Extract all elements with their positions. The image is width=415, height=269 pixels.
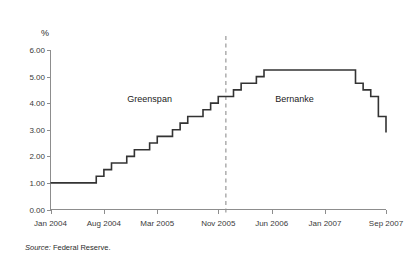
fed-funds-rate-step-chart: % 0.001.002.003.004.005.006.00 Jan 2004A… [0, 0, 415, 269]
x-tick-labels-group: Jan 2004Aug 2004Mar 2005Nov 2005Jun 2006… [34, 219, 404, 228]
x-tick-label: Jun 2006 [255, 219, 288, 228]
y-tick-label: 6.00 [29, 46, 45, 55]
x-tick-marks-group [51, 210, 387, 214]
y-tick-label: 5.00 [29, 73, 45, 82]
x-tick-label: Mar 2005 [140, 219, 174, 228]
x-tick-label: Jan 2004 [34, 219, 67, 228]
x-tick-label: Sep 2007 [369, 219, 404, 228]
figure-container: % 0.001.002.003.004.005.006.00 Jan 2004A… [0, 0, 415, 269]
x-tick-label: Nov 2005 [201, 219, 236, 228]
y-tick-labels-group: 0.001.002.003.004.005.006.00 [29, 46, 45, 215]
bernanke-label: Bernanke [275, 94, 314, 104]
source-note-prefix: Source: [25, 243, 51, 252]
chart-annotations-group: GreenspanBernanke [127, 94, 313, 104]
y-tick-label: 4.00 [29, 99, 45, 108]
greenspan-label: Greenspan [127, 94, 172, 104]
x-tick-label: Aug 2004 [87, 219, 122, 228]
y-axis-title: % [41, 28, 49, 38]
y-tick-label: 1.00 [29, 179, 45, 188]
y-tick-label: 2.00 [29, 152, 45, 161]
x-tick-label: Jan 2007 [309, 219, 342, 228]
y-tick-marks-group [47, 51, 51, 211]
y-tick-label: 0.00 [29, 206, 45, 215]
y-tick-label: 3.00 [29, 126, 45, 135]
rate-step-line [51, 70, 387, 183]
source-note: Source: Federal Reserve. [25, 243, 110, 252]
source-note-body: Federal Reserve. [51, 243, 111, 252]
y-axis-title-group: % [41, 28, 49, 38]
